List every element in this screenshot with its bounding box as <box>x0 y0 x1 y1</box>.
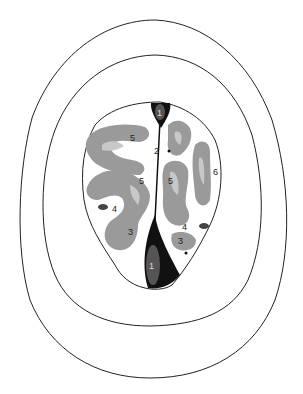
label-5-upper-left: 5 <box>130 133 135 143</box>
label-1-top: 1 <box>157 108 162 118</box>
label-3-left: 3 <box>128 227 133 237</box>
brain-cross-section-diagram: 1 5 2 6 5 5 4 4 3 3 1 <box>0 0 303 394</box>
dot <box>185 252 188 255</box>
label-4-left: 4 <box>112 204 117 214</box>
label-5-mid-right: 5 <box>168 176 173 186</box>
lesion-left <box>98 204 108 210</box>
label-3-right: 3 <box>178 236 183 246</box>
label-1-bottom: 1 <box>149 261 154 271</box>
lesion-right <box>199 223 209 229</box>
dot <box>168 150 171 153</box>
label-6: 6 <box>213 167 218 177</box>
label-4-right: 4 <box>182 222 187 232</box>
label-5-mid-left: 5 <box>139 176 144 186</box>
label-2: 2 <box>154 146 159 156</box>
